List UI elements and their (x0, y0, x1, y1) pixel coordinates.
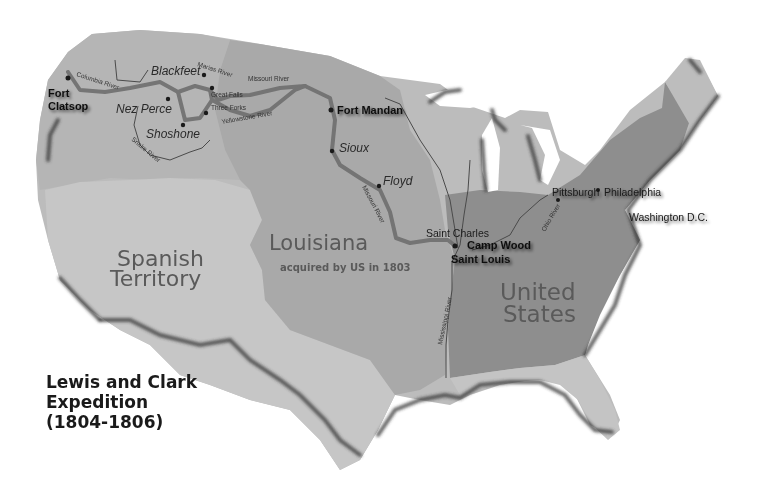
saint-louis-label: Saint Louis (451, 253, 510, 265)
shoshone-label: Shoshone (146, 127, 200, 141)
sioux-label: Sioux (339, 141, 370, 155)
united-states-label-2: States (503, 301, 576, 327)
camp-wood-label: Camp Wood (467, 239, 531, 251)
great-falls-label: Great Falls (211, 91, 244, 98)
title-line-3: (1804-1806) (46, 412, 197, 432)
pittsburgh-label: Pittsburgh (552, 186, 599, 198)
washington-dc-label: Washington D.C. (629, 211, 708, 223)
blackfeet-label: Blackfeet (151, 64, 201, 78)
nez-perce-label: Nez Perce (116, 102, 172, 116)
louisiana-label: Louisiana (269, 231, 368, 255)
fort-clatsop-label-1: Fort (48, 87, 70, 99)
map-title: Lewis and Clark Expedition (1804-1806) (46, 372, 197, 432)
philadelphia-label: Philadelphia (604, 186, 661, 198)
title-line-2: Expedition (46, 392, 197, 412)
missouri-river-upper-label: Missouri River (248, 75, 290, 82)
fort-clatsop-label-2: Clatsop (48, 100, 89, 112)
saint-charles-label: Saint Charles (426, 227, 489, 239)
spanish-territory-label-2: Territory (109, 266, 201, 291)
fort-mandan-label: Fort Mandan (337, 104, 403, 116)
louisiana-subtitle: acquired by US in 1803 (280, 262, 411, 273)
three-forks-label: Three Forks (211, 104, 247, 111)
title-line-1: Lewis and Clark (46, 372, 197, 392)
floyd-label: Floyd (383, 174, 413, 188)
